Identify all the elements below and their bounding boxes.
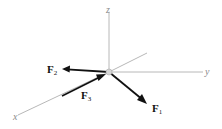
f2-arrow-shaft bbox=[67, 69, 109, 72]
f1-arrow-shaft bbox=[109, 72, 143, 100]
negative-x-axis bbox=[109, 53, 147, 72]
force-diagram: z y x F1 F2 F3 bbox=[0, 0, 222, 129]
f3-arrowhead-icon bbox=[96, 74, 106, 81]
f3-label: F3 bbox=[81, 89, 92, 103]
f1-label: F1 bbox=[152, 102, 163, 116]
force-f1: F1 bbox=[109, 72, 163, 116]
f2-label: F2 bbox=[47, 63, 58, 77]
force-f3: F3 bbox=[62, 74, 106, 103]
z-axis-label: z bbox=[105, 4, 110, 15]
y-axis-label: y bbox=[204, 66, 210, 77]
axes: z y x bbox=[12, 4, 210, 122]
origin-node bbox=[106, 69, 112, 75]
x-axis-label: x bbox=[12, 111, 18, 122]
f2-arrowhead-icon bbox=[62, 66, 70, 73]
